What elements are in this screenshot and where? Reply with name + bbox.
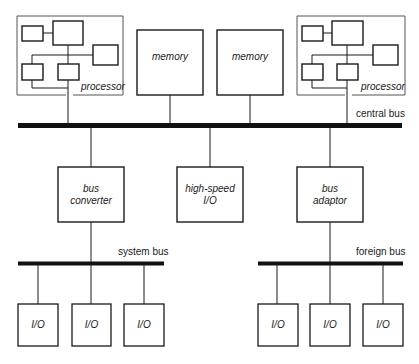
high-speed-io-label-line2: I/O [203,195,216,207]
io-label-4: I/O [258,304,298,346]
io-label-5: I/O [310,304,350,346]
processor-label-right: processor [361,81,405,93]
bus-converter-label-line1: bus [83,183,99,195]
central-bus-label: central bus [356,108,405,120]
processor-label-left: processor [81,81,125,93]
processor-left [17,16,123,125]
bus-adaptor-box: bus adaptor [297,167,363,222]
io-label-3: I/O [124,304,164,346]
bus-adaptor-label-line1: bus [322,183,338,195]
high-speed-io-label-line1: high-speed [185,183,234,195]
bus-converter-label-line2: converter [70,195,112,207]
io-label-2: I/O [72,304,111,346]
memory-label-2: memory [217,24,283,89]
memory-label-1: memory [137,24,203,89]
system-bus-label: system bus [118,246,169,258]
bus-converter-box: bus converter [58,167,124,222]
foreign-bus-label: foreign bus [356,246,405,258]
io-label-1: I/O [18,304,58,346]
io-label-6: I/O [363,304,403,346]
bus-adaptor-label-line2: adaptor [313,195,347,207]
high-speed-io-box: high-speed I/O [177,167,243,222]
